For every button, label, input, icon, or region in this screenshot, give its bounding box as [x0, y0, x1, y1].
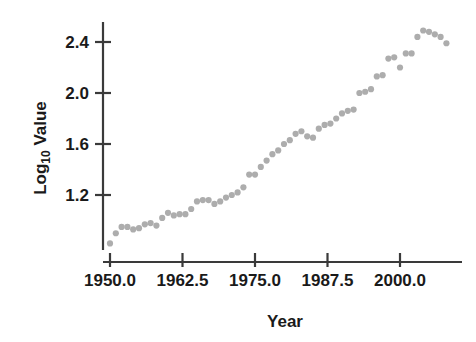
data-point — [420, 27, 426, 33]
x-axis-title-text: Year — [267, 312, 303, 331]
y-tick-label-1.6: 1.6 — [65, 135, 89, 154]
data-point — [339, 110, 345, 116]
data-point — [264, 157, 270, 163]
y-tick-label-2.0: 2.0 — [65, 84, 89, 103]
data-point — [211, 201, 217, 207]
data-point — [252, 172, 258, 178]
data-point — [153, 223, 159, 229]
x-tick-label-1962.5: 1962.5 — [157, 271, 209, 290]
data-point — [333, 115, 339, 121]
data-point — [107, 240, 113, 246]
data-point — [426, 29, 432, 35]
data-point — [177, 211, 183, 217]
x-tick-labels: 1950.01962.51975.01987.52000.0 — [84, 271, 426, 290]
data-point — [235, 189, 241, 195]
data-point — [124, 224, 130, 230]
data-point — [240, 184, 246, 190]
data-point — [304, 133, 310, 139]
data-point — [310, 135, 316, 141]
x-tick-label-1950.0: 1950.0 — [84, 271, 136, 290]
data-point — [119, 224, 125, 230]
y-tick-label-1.2: 1.2 — [65, 186, 89, 205]
data-point — [206, 197, 212, 203]
data-point — [136, 225, 142, 231]
data-point — [327, 121, 333, 127]
data-points-group — [107, 27, 450, 246]
data-point — [414, 34, 420, 40]
data-point — [316, 126, 322, 132]
data-point — [362, 89, 368, 95]
data-point — [322, 122, 328, 128]
data-point — [148, 220, 154, 226]
data-point — [223, 194, 229, 200]
data-point — [351, 106, 357, 112]
data-point — [391, 54, 397, 60]
x-tick-label-1975.0: 1975.0 — [229, 271, 281, 290]
data-point — [374, 73, 380, 79]
y-tick-labels: 1.21.62.02.4 — [65, 33, 89, 205]
data-point — [200, 197, 206, 203]
data-point — [269, 151, 275, 157]
data-point — [409, 50, 415, 56]
tick-marks-group — [95, 42, 400, 267]
data-point — [443, 40, 449, 46]
data-point — [142, 221, 148, 227]
data-point — [188, 206, 194, 212]
data-point — [130, 226, 136, 232]
data-point — [298, 128, 304, 134]
data-point — [293, 131, 299, 137]
y-tick-label-2.4: 2.4 — [65, 33, 89, 52]
data-point — [403, 50, 409, 56]
data-point — [165, 210, 171, 216]
data-point — [217, 198, 223, 204]
data-point — [113, 230, 119, 236]
data-point — [159, 215, 165, 221]
data-point — [356, 90, 362, 96]
data-point — [438, 34, 444, 40]
data-point — [380, 72, 386, 78]
data-point — [194, 198, 200, 204]
data-point — [368, 86, 374, 92]
data-point — [287, 137, 293, 143]
scatter-plot-svg: 1950.01962.51975.01987.52000.0 1.21.62.0… — [0, 0, 476, 342]
data-point — [275, 147, 281, 153]
data-point — [246, 172, 252, 178]
data-point — [397, 64, 403, 70]
data-point — [182, 211, 188, 217]
data-point — [432, 31, 438, 37]
data-point — [345, 108, 351, 114]
data-point — [385, 55, 391, 61]
data-point — [171, 212, 177, 218]
data-point — [281, 141, 287, 147]
data-point — [258, 164, 264, 170]
y-axis-title: Log10 Value — [31, 101, 53, 195]
y-axis-title-text: Log10 Value — [31, 101, 53, 195]
chart-container: 1950.01962.51975.01987.52000.0 1.21.62.0… — [0, 0, 476, 342]
x-tick-label-2000.0: 2000.0 — [374, 271, 426, 290]
x-tick-label-1987.5: 1987.5 — [302, 271, 354, 290]
data-point — [229, 192, 235, 198]
